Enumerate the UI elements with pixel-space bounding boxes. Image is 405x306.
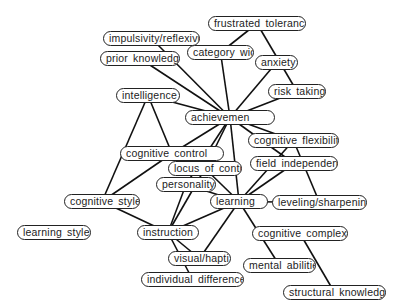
node-label: impulsivity/reflexivi	[109, 32, 200, 44]
node-personality[interactable]: personality	[156, 177, 216, 192]
node-label: cognitive flexibilit	[254, 134, 339, 146]
node-anxiety[interactable]: anxiety	[255, 55, 298, 70]
node-label: instruction	[143, 226, 193, 238]
node-prior-knowledge[interactable]: prior knowledge	[100, 51, 180, 66]
node-label: personality	[162, 178, 215, 190]
node-field-independence[interactable]: field independence	[250, 156, 338, 171]
node-label: structural knowledg	[289, 286, 385, 298]
node-label: locus of contro	[174, 162, 242, 174]
node-label: achievemen	[191, 111, 250, 123]
node-cognitive-complexity[interactable]: cognitive complexity	[252, 226, 348, 241]
node-locus-of-control[interactable]: locus of contro	[168, 161, 242, 176]
edge-cognitive-flexibility-to-learning	[239, 141, 294, 202]
node-intelligence[interactable]: intelligence	[116, 88, 180, 103]
node-visual-haptic[interactable]: visual/hapti	[168, 251, 231, 266]
node-label: visual/hapti	[174, 252, 229, 264]
node-achievement[interactable]: achievemen	[185, 110, 275, 125]
node-category-width[interactable]: category widt	[187, 45, 254, 60]
node-risk-taking[interactable]: risk taking	[268, 84, 326, 99]
node-cognitive-styles[interactable]: cognitive styles	[64, 194, 140, 209]
node-cognitive-control[interactable]: cognitive control	[120, 146, 224, 161]
node-individual-differences[interactable]: individual differences	[141, 272, 244, 287]
node-label: intelligence	[122, 89, 177, 101]
edge-achievement-to-learning	[230, 118, 239, 202]
edge-category-width-to-achievement	[221, 53, 231, 118]
node-label: category widt	[193, 46, 254, 58]
node-label: individual differences	[147, 273, 244, 285]
edge-cognitive-flexibility-to-leveling-sharpening	[294, 141, 320, 203]
node-frustrated-tolerance[interactable]: frustrated toleranc	[208, 16, 306, 31]
node-structural-knowledge[interactable]: structural knowledg	[283, 285, 386, 300]
node-learning-styles[interactable]: learning styles	[17, 225, 91, 240]
node-label: prior knowledge	[106, 52, 180, 64]
node-label: learning styles	[23, 226, 91, 238]
node-mental-abilities[interactable]: mental abilities	[243, 258, 316, 273]
node-cognitive-flexibility[interactable]: cognitive flexibilit	[248, 133, 339, 148]
node-label: anxiety	[261, 56, 296, 68]
node-label: frustrated toleranc	[214, 17, 304, 29]
node-label: leveling/sharpening	[278, 196, 367, 208]
node-label: cognitive control	[126, 147, 207, 159]
node-learning[interactable]: learning	[210, 194, 268, 209]
node-label: field independence	[256, 157, 338, 169]
node-label: cognitive styles	[70, 195, 140, 207]
edge-intelligence-to-cognitive-control	[148, 96, 172, 154]
node-instruction[interactable]: instruction	[137, 225, 199, 240]
node-impulsivity[interactable]: impulsivity/reflexivi	[103, 31, 200, 46]
node-leveling-sharpening[interactable]: leveling/sharpening	[272, 195, 367, 210]
node-label: mental abilities	[249, 259, 316, 271]
node-label: cognitive complexity	[258, 227, 348, 239]
node-label: learning	[216, 195, 255, 207]
node-label: risk taking	[274, 85, 325, 97]
